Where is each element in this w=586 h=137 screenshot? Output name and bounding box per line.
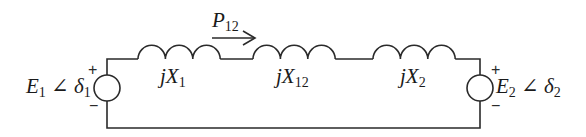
reactance-label-x1: jX1 — [160, 66, 186, 87]
inductor-x12 — [253, 45, 335, 59]
power-flow-label: P12 — [212, 10, 239, 31]
source-2-label: E2 ∠ δ2 — [496, 76, 561, 97]
wire-left-bottom — [107, 101, 480, 128]
inductor-x1 — [138, 45, 220, 59]
reactance-label-x12: jX12 — [276, 66, 309, 87]
voltage-source-2-symbol — [467, 75, 493, 101]
reactance-label-x2: jX2 — [400, 66, 426, 87]
source-1-minus: − — [89, 98, 98, 114]
wire-left-top — [107, 59, 138, 75]
source-2-minus: − — [491, 98, 500, 114]
source-1-label: E1 ∠ δ1 — [26, 76, 91, 97]
wire-right-top — [455, 59, 480, 75]
inductor-x2 — [373, 45, 455, 59]
